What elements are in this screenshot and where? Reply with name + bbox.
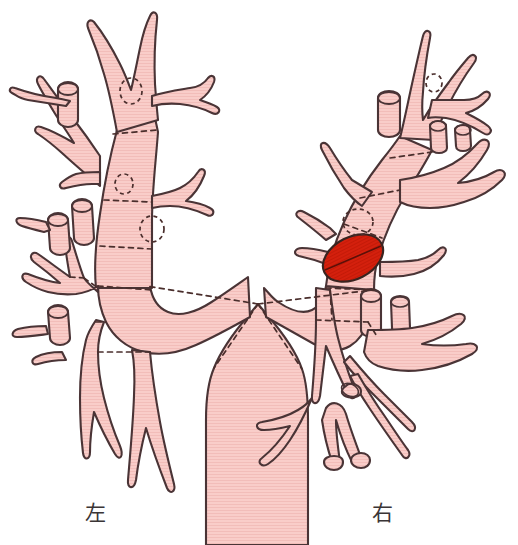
right-lower-stub-tube-e <box>351 453 370 468</box>
label-left-side: 左 <box>85 503 106 524</box>
left-lower-lobe-trunk <box>80 320 122 459</box>
left-lower-branch-pair <box>128 350 174 492</box>
bronchial-tree-diagram <box>0 0 518 545</box>
right-upper-stub-tube-a <box>378 91 400 137</box>
left-lower-stub-tube-e <box>48 305 70 345</box>
right-lesion-medial-prong-1 <box>296 211 336 240</box>
left-lower-spike-f <box>13 326 48 337</box>
right-lateral-spike-below-lesion <box>380 248 446 277</box>
label-right-side: 右 <box>372 503 393 524</box>
left-lower-stub-tube-b <box>48 213 70 255</box>
left-upper-lateral-branch-1 <box>152 76 219 114</box>
right-upper-stub-tube-b <box>430 121 447 153</box>
left-upper-segment-apical <box>87 13 158 132</box>
left-mid-branch-right <box>152 169 213 216</box>
left-upper-lobe-trunk <box>95 118 158 288</box>
left-lower-spike-g <box>32 352 66 364</box>
left-lower-spike-d <box>16 218 50 232</box>
bronchial-tree-figure: 左 右 <box>0 0 518 545</box>
right-lower-stub-tube-d <box>324 456 343 470</box>
right-upper-stub-tube-c <box>455 125 471 151</box>
left-mid-spike-left <box>60 172 100 188</box>
left-lower-stub-tube-c <box>72 199 94 245</box>
right-upper-orifice-1 <box>426 74 442 92</box>
